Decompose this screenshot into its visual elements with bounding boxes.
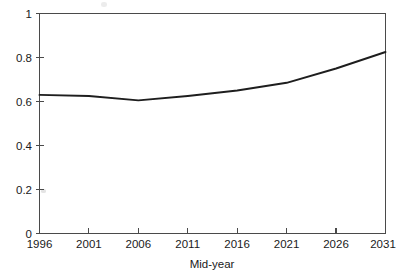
y-tick-label-0-2: 0.2 — [16, 184, 32, 196]
chart-plot-area: 0 0.2 0.4 0.6 0.8 1 1996 2001 2006 2011 … — [0, 0, 405, 280]
x-axis-title: Mid-year — [190, 258, 235, 270]
x-tick-label-2006: 2006 — [126, 238, 152, 250]
x-axis-tick-labels: 1996 2001 2006 2011 2016 2021 2026 2031 — [27, 238, 396, 250]
x-tick-label-2016: 2016 — [224, 238, 250, 250]
x-tick-label-2011: 2011 — [175, 238, 200, 250]
x-tick-label-2001: 2001 — [76, 238, 102, 250]
data-series-line — [40, 52, 386, 100]
y-tick-label-0-4: 0.4 — [16, 140, 33, 152]
line-chart-figure: 0 0.2 0.4 0.6 0.8 1 1996 2001 2006 2011 … — [0, 0, 405, 280]
x-tick-label-1996: 1996 — [27, 238, 53, 250]
y-tick-label-0-8: 0.8 — [16, 52, 32, 64]
y-tick-label-0-6: 0.6 — [16, 96, 32, 108]
y-tick-label-1: 1 — [26, 8, 32, 20]
y-axis-tick-labels: 0 0.2 0.4 0.6 0.8 1 — [16, 8, 33, 240]
x-tick-label-2026: 2026 — [323, 238, 349, 250]
x-axis-ticks — [40, 228, 386, 234]
x-tick-label-2031: 2031 — [370, 238, 396, 250]
x-tick-label-2021: 2021 — [274, 238, 300, 250]
